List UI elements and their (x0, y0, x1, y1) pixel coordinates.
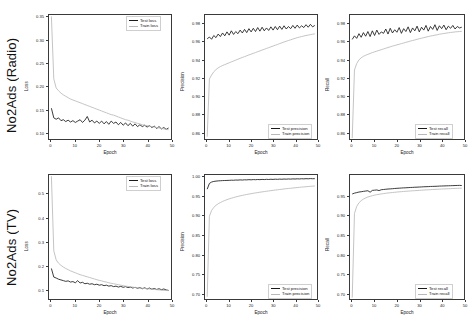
x-tick-mark (397, 300, 398, 302)
y-tick-label: 0.96 (327, 39, 345, 44)
series-line (352, 25, 462, 40)
x-tick-label: 30 (121, 143, 126, 148)
y-tick-mark (202, 96, 204, 97)
x-tick-label: 50 (316, 303, 321, 308)
x-tick-label: 0 (350, 303, 352, 308)
y-tick-mark (202, 235, 204, 236)
y-axis-title: Recall (325, 63, 330, 91)
y-tick-mark (46, 16, 48, 17)
series-line (207, 186, 315, 297)
y-tick-label: 0.70 (327, 292, 345, 297)
x-tick-mark (206, 300, 207, 302)
plot-area-tv-precision (204, 174, 318, 300)
x-tick-mark (442, 300, 443, 302)
series-line (352, 185, 462, 194)
x-axis-title: Epoch (400, 310, 413, 315)
y-tick-label: 0.94 (327, 57, 345, 62)
x-tick-label: 40 (293, 143, 298, 148)
x-tick-mark (296, 300, 297, 302)
legend-radio-precision: Test precisionTrain precision (268, 124, 312, 139)
x-tick-label: 30 (271, 303, 276, 308)
x-tick-mark (50, 300, 51, 302)
legend-label: Train precision (282, 292, 309, 296)
y-tick-label: 0.90 (182, 94, 200, 99)
legend-radio-loss: Test lossTrain loss (126, 16, 161, 31)
y-tick-label: 0.96 (182, 39, 200, 44)
x-tick-mark (442, 140, 443, 142)
x-axis-title: Epoch (103, 310, 116, 315)
x-tick-label: 40 (440, 143, 445, 148)
y-tick-mark (347, 60, 349, 61)
y-tick-mark (202, 60, 204, 61)
x-tick-label: 20 (394, 303, 399, 308)
y-axis-title: Precision (180, 223, 185, 251)
x-axis-title: Epoch (400, 150, 413, 155)
x-tick-mark (229, 140, 230, 142)
legend-tv-recall: Test recallTrain recall (415, 284, 453, 299)
legend-label: Train recall (429, 132, 450, 136)
y-tick-label: 0.95 (182, 193, 200, 198)
x-tick-label: 40 (145, 303, 150, 308)
x-tick-label: 20 (249, 143, 254, 148)
y-tick-mark (46, 266, 48, 267)
x-axis-title: Epoch (103, 150, 116, 155)
y-tick-label: 0.70 (182, 292, 200, 297)
legend-row: Train loss (129, 184, 158, 188)
x-tick-mark (465, 140, 466, 142)
x-tick-label: 50 (170, 143, 175, 148)
x-tick-mark (123, 300, 124, 302)
legend-label: Test loss (140, 179, 156, 183)
y-tick-label: 0.1 (26, 288, 44, 293)
y-tick-mark (46, 193, 48, 194)
y-tick-label: 0.86 (182, 130, 200, 135)
legend-row: Test precision (271, 287, 309, 291)
x-tick-mark (50, 140, 51, 142)
legend-row: Test precision (271, 127, 309, 131)
legend-line-swatch (418, 128, 427, 129)
y-axis-title: Recall (325, 223, 330, 251)
legend-radio-recall: Test recallTrain recall (415, 124, 453, 139)
y-tick-label: 0.98 (182, 21, 200, 26)
y-tick-mark (202, 255, 204, 256)
y-tick-mark (202, 294, 204, 295)
y-tick-mark (202, 133, 204, 134)
y-tick-mark (347, 255, 349, 256)
plot-area-radio-loss (48, 14, 172, 140)
y-axis-title: Loss (24, 63, 29, 91)
x-tick-mark (351, 300, 352, 302)
legend-row: Train recall (418, 292, 450, 296)
x-tick-label: 30 (271, 143, 276, 148)
y-tick-mark (46, 242, 48, 243)
x-tick-mark (273, 300, 274, 302)
legend-row: Train recall (418, 132, 450, 136)
x-tick-mark (148, 140, 149, 142)
x-tick-label: 0 (49, 303, 51, 308)
y-tick-mark (347, 96, 349, 97)
x-tick-mark (251, 300, 252, 302)
x-tick-mark (273, 140, 274, 142)
x-tick-label: 30 (121, 303, 126, 308)
legend-label: Train loss (140, 184, 158, 188)
y-tick-mark (202, 23, 204, 24)
y-tick-mark (202, 196, 204, 197)
y-tick-label: 0.80 (327, 252, 345, 257)
x-tick-label: 10 (72, 143, 77, 148)
x-tick-label: 50 (316, 143, 321, 148)
legend-label: Test precision (282, 287, 308, 291)
y-tick-mark (347, 133, 349, 134)
y-tick-mark (347, 294, 349, 295)
legend-line-swatch (129, 20, 138, 21)
x-tick-mark (397, 140, 398, 142)
x-tick-label: 10 (226, 143, 231, 148)
legend-label: Train recall (429, 292, 450, 296)
legend-line-swatch (129, 180, 138, 181)
x-tick-label: 0 (205, 303, 207, 308)
x-tick-label: 50 (170, 303, 175, 308)
x-tick-mark (148, 300, 149, 302)
x-tick-mark (229, 300, 230, 302)
y-tick-mark (202, 215, 204, 216)
series-line (352, 31, 462, 138)
panel-radio-loss: 0.100.150.200.250.300.3501020304050LossE… (26, 8, 176, 158)
x-tick-label: 0 (49, 143, 51, 148)
y-tick-mark (202, 41, 204, 42)
